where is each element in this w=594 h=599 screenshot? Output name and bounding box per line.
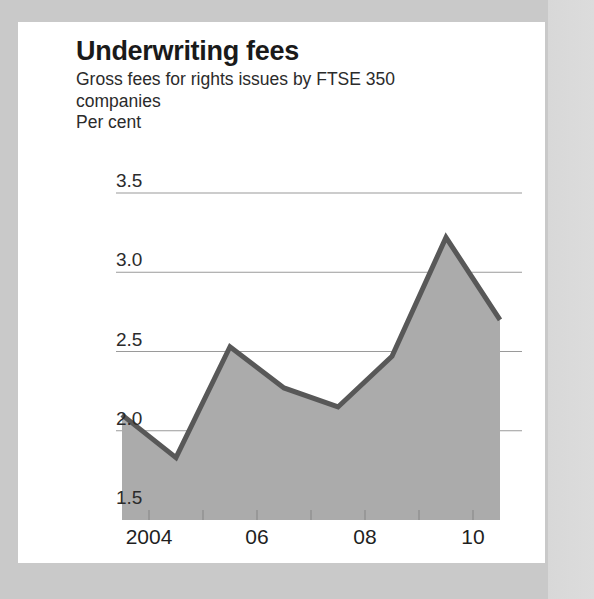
y-axis-label-3.5: 3.5	[116, 170, 142, 191]
x-axis-label-06: 06	[245, 525, 268, 548]
y-axis-label-1.5: 1.5	[116, 487, 142, 508]
x-axis-label-10: 10	[461, 525, 484, 548]
area-fill-region	[122, 237, 500, 510]
page-background: Underwriting fees Gross fees for rights …	[0, 0, 594, 599]
y-axis-label-2.0: 2.0	[116, 408, 142, 429]
chart-plot-area: 1.52.02.53.03.52004060810	[18, 22, 545, 563]
y-axis-label-3.0: 3.0	[116, 249, 142, 270]
x-axis-label-08: 08	[353, 525, 376, 548]
area-chart: 1.52.02.53.03.52004060810	[18, 22, 545, 563]
x-axis-label-2004: 2004	[126, 525, 173, 548]
chart-card: Underwriting fees Gross fees for rights …	[18, 22, 545, 563]
y-axis-label-2.5: 2.5	[116, 329, 142, 350]
